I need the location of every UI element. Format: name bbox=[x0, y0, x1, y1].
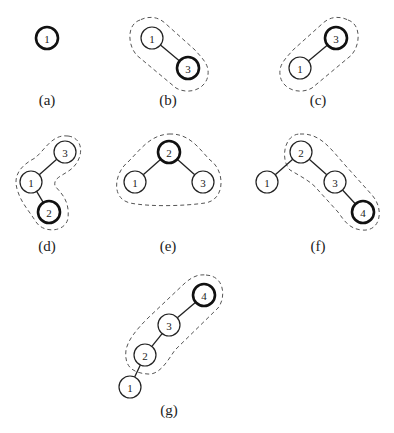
tree-node-1: 1 bbox=[119, 376, 141, 398]
svg-text:2: 2 bbox=[142, 350, 148, 362]
tree-node-1: 1 bbox=[256, 171, 278, 193]
tree-edge bbox=[152, 334, 162, 347]
tree-node-1: 1 bbox=[20, 171, 42, 193]
tree-node-3: 3 bbox=[158, 314, 180, 336]
svg-text:3: 3 bbox=[185, 63, 191, 75]
svg-text:1: 1 bbox=[44, 33, 50, 45]
caption-e: (e) bbox=[160, 238, 177, 255]
caption-b: (b) bbox=[159, 92, 177, 109]
caption-f: (f) bbox=[311, 238, 326, 255]
tree-edge bbox=[308, 45, 327, 61]
panel-b: 13(b) bbox=[130, 17, 208, 109]
dashed-path-outline bbox=[280, 17, 358, 91]
svg-text:3: 3 bbox=[200, 177, 206, 189]
tree-node-2: 2 bbox=[158, 141, 180, 163]
svg-text:3: 3 bbox=[333, 33, 339, 45]
caption-a: (a) bbox=[39, 92, 56, 109]
svg-text:1: 1 bbox=[132, 177, 138, 189]
tree-node-1: 1 bbox=[36, 27, 58, 49]
tree-edge bbox=[343, 190, 356, 204]
tree-node-4: 4 bbox=[193, 284, 215, 306]
panel-g: 4321(g) bbox=[119, 275, 223, 419]
tree-figure: 1(a)13(b)31(c)312(d)213(e)2134(f)4321(g) bbox=[0, 0, 394, 433]
svg-text:4: 4 bbox=[201, 290, 207, 302]
tree-node-1: 1 bbox=[141, 27, 163, 49]
tree-edge bbox=[143, 159, 161, 174]
panel-d: 312(d) bbox=[16, 136, 81, 255]
tree-node-2: 2 bbox=[38, 201, 60, 223]
tree-edge bbox=[275, 159, 293, 174]
svg-text:1: 1 bbox=[149, 33, 155, 45]
svg-text:1: 1 bbox=[127, 382, 133, 394]
tree-node-3: 3 bbox=[54, 141, 76, 163]
tree-node-2: 2 bbox=[134, 344, 156, 366]
panel-c: 31(c) bbox=[280, 17, 358, 109]
svg-text:2: 2 bbox=[46, 207, 52, 219]
tree-edge bbox=[160, 45, 179, 61]
svg-text:3: 3 bbox=[332, 177, 338, 189]
svg-text:2: 2 bbox=[166, 147, 172, 159]
tree-edge bbox=[177, 302, 195, 318]
tree-node-2: 2 bbox=[290, 141, 312, 163]
panel-f: 2134(f) bbox=[256, 134, 379, 255]
svg-text:1: 1 bbox=[264, 177, 270, 189]
tree-node-1: 1 bbox=[124, 171, 146, 193]
tree-node-3: 3 bbox=[192, 171, 214, 193]
caption-d: (d) bbox=[38, 238, 56, 255]
svg-text:1: 1 bbox=[297, 63, 303, 75]
svg-text:4: 4 bbox=[360, 207, 366, 219]
svg-text:1: 1 bbox=[28, 177, 34, 189]
tree-edge bbox=[309, 159, 327, 174]
tree-node-3: 3 bbox=[325, 27, 347, 49]
tree-edge bbox=[37, 191, 44, 202]
tree-node-3: 3 bbox=[324, 171, 346, 193]
tree-edge bbox=[39, 159, 57, 174]
dashed-path-outline bbox=[130, 17, 208, 91]
svg-text:3: 3 bbox=[166, 320, 172, 332]
caption-g: (g) bbox=[160, 402, 178, 419]
panel-e: 213(e) bbox=[117, 134, 221, 255]
panel-a: 1(a) bbox=[36, 27, 58, 109]
tree-node-4: 4 bbox=[352, 201, 374, 223]
tree-node-1: 1 bbox=[289, 57, 311, 79]
tree-edge bbox=[177, 159, 195, 174]
svg-text:3: 3 bbox=[62, 147, 68, 159]
caption-c: (c) bbox=[310, 92, 327, 109]
svg-text:2: 2 bbox=[298, 147, 304, 159]
tree-node-3: 3 bbox=[177, 57, 199, 79]
